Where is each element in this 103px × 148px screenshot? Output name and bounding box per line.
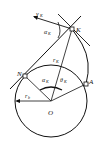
arrow-head-icon [15,99,20,103]
label-n: N [16,70,22,78]
point-a-marker [84,82,88,86]
label-velocity-sub: K [39,13,43,18]
label-a: A [88,78,94,86]
label-base-radius-sub: b [28,95,30,100]
point-n-marker [23,74,27,78]
label-o: O [48,109,53,117]
velocity-line [34,17,72,29]
angle-arc [40,87,62,90]
point-k-marker [70,27,74,31]
label-pressure-angle-sub: K [47,31,51,36]
label-theta-sub: K [63,79,67,84]
diagram-svg: K N A O v K α K r K α K θ K r b [0,0,103,148]
label-theta: θ [60,77,63,83]
involute-curve [72,29,88,84]
label-roll-angle-sub: K [45,79,49,84]
label-radius-k-sub: K [55,59,59,64]
label-k: K [75,26,81,34]
involute-diagram: K N A O v K α K r K α K θ K r b [0,0,103,148]
label-velocity: v [36,11,39,17]
radius-oa [51,84,86,101]
